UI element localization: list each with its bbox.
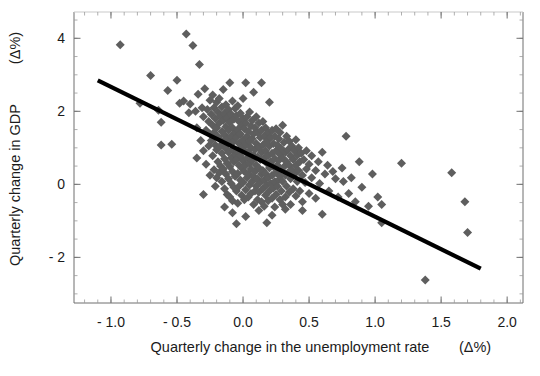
x-tick-label: 1.5	[431, 314, 451, 330]
x-tick-label: 1.0	[365, 314, 385, 330]
x-tick-label: - 0.5	[163, 314, 191, 330]
x-tick-label: 0.5	[299, 314, 319, 330]
trend-line	[98, 80, 481, 268]
y-tick-label: - 2	[49, 249, 66, 265]
y-tick-label: 0	[57, 176, 65, 192]
y-tick-label: 4	[57, 30, 65, 46]
x-tick-label: - 1.0	[97, 314, 125, 330]
chart-canvas: - 1.0- 0.50.00.51.01.52.0420- 2	[0, 0, 540, 376]
x-tick-label: 0.0	[233, 314, 253, 330]
x-tick-label: 2.0	[497, 314, 517, 330]
scatter-chart: - 1.0- 0.50.00.51.01.52.0420- 2 Quarterl…	[0, 0, 540, 376]
y-tick-label: 2	[57, 103, 65, 119]
data-points	[116, 29, 472, 284]
